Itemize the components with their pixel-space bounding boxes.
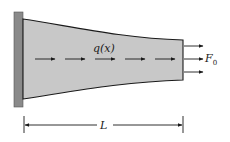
wall-support <box>14 12 23 107</box>
end-force-subscript: 0 <box>213 59 217 67</box>
distributed-load-label: q(x) <box>93 42 115 55</box>
end-force-label: F0 <box>204 52 217 67</box>
length-label: L <box>99 119 107 132</box>
tapered-bar-diagram: q(x) F0 L <box>0 0 230 142</box>
end-force-arrows <box>184 46 203 72</box>
